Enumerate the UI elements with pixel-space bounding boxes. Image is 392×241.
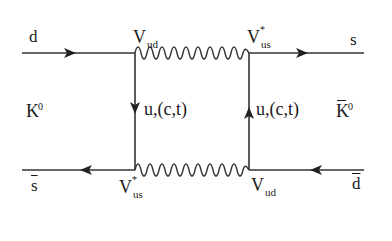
label-kaon-left: K0 — [26, 102, 43, 120]
ckm-subscript-text: us — [133, 188, 143, 200]
label-vertex-bottom-left: V*us — [119, 178, 143, 196]
ckm-v-text: V — [251, 175, 264, 195]
kaon-superscript-text: 0 — [38, 101, 43, 112]
label-vertex-top-left: Vud — [133, 28, 158, 46]
quark-s-text: s — [350, 30, 357, 49]
antiquark-sbar-text: s — [31, 176, 38, 195]
feynman-diagram — [0, 0, 392, 241]
bottom-boson-wavy-line — [135, 164, 249, 176]
label-bottom-right-antiquark: d — [352, 175, 361, 192]
label-internal-quark-right: u,(c,t) — [256, 100, 299, 118]
ckm-v-text: V — [247, 27, 260, 47]
label-vertex-bottom-right: Vud — [251, 176, 276, 194]
quark-d-text: d — [29, 27, 38, 46]
ckm-subscript-text: us — [261, 38, 271, 50]
internal-quark-right-text: u,(c,t) — [256, 99, 299, 119]
ckm-subscript-text: ud — [265, 186, 276, 198]
ckm-v-text: V — [133, 27, 146, 47]
label-antikaon-right: K0 — [336, 102, 353, 120]
antiquark-dbar-text: d — [352, 174, 361, 193]
label-top-right-quark: s — [350, 31, 357, 48]
antikaon-superscript-text: 0 — [348, 101, 353, 112]
label-top-left-quark: d — [29, 28, 38, 45]
label-bottom-left-antiquark: s — [31, 177, 38, 194]
label-internal-quark-left: u,(c,t) — [144, 100, 187, 118]
ckm-v-text: V — [119, 177, 132, 197]
conjugate-star-icon: * — [260, 25, 265, 35]
internal-quark-left-text: u,(c,t) — [144, 99, 187, 119]
ckm-subscript-text: ud — [147, 38, 158, 50]
label-vertex-top-right: V*us — [247, 28, 271, 46]
conjugate-star-icon: * — [132, 175, 137, 185]
